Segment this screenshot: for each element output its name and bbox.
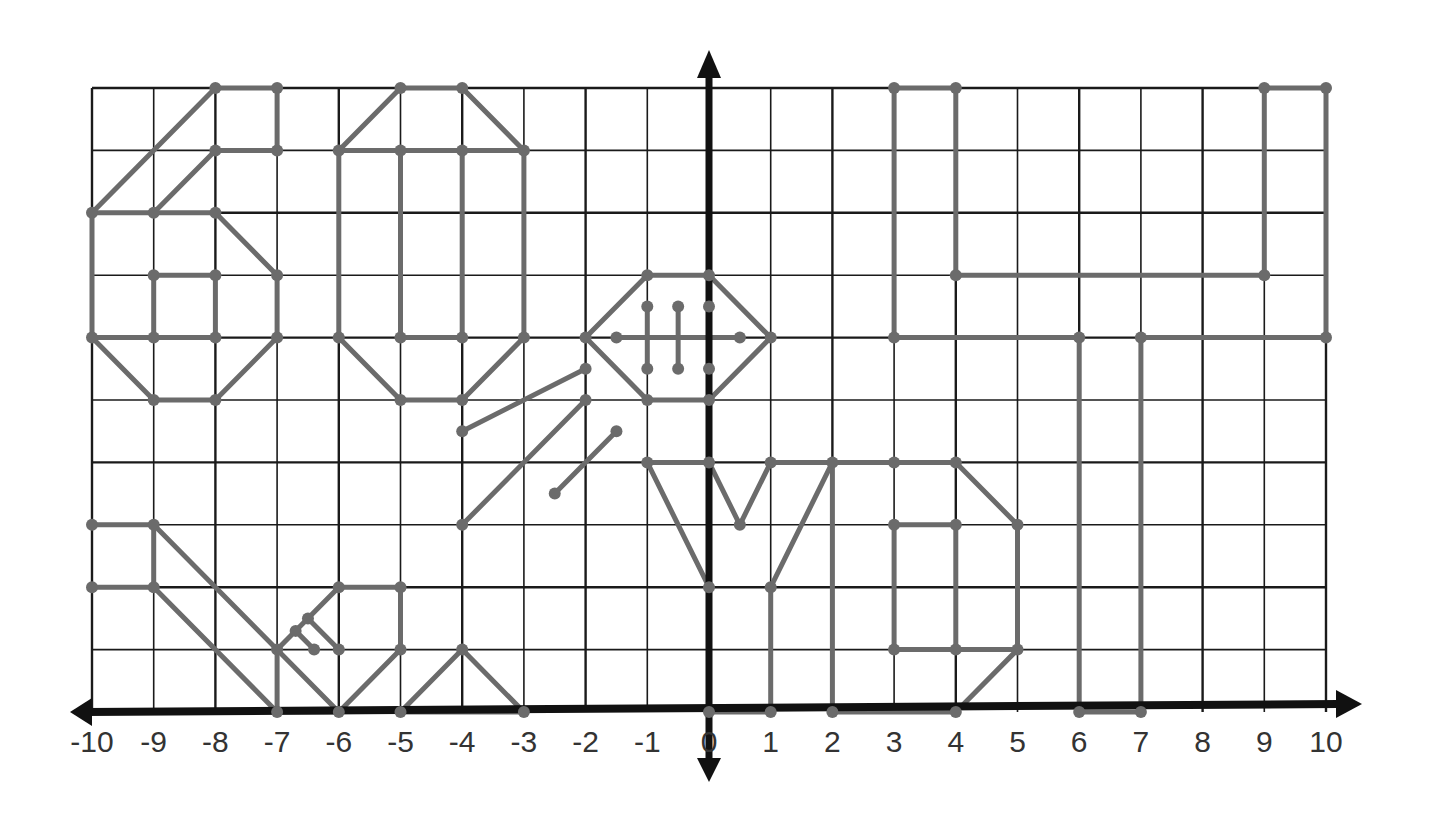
plotted-point (703, 706, 715, 718)
plotted-segment (709, 338, 771, 400)
plotted-point (826, 706, 838, 718)
plotted-point (950, 644, 962, 656)
x-tick-label: -10 (70, 725, 113, 758)
plotted-point (703, 581, 715, 593)
x-tick-label: 10 (1309, 725, 1342, 758)
plotted-point (148, 269, 160, 281)
plotted-point (333, 144, 345, 156)
plotted-point (86, 332, 98, 344)
x-tick-label: -5 (387, 725, 414, 758)
plotted-segment (462, 650, 524, 712)
plotted-point (333, 581, 345, 593)
plotted-segment (462, 88, 524, 150)
plotted-point (1073, 706, 1085, 718)
plotted-point (734, 519, 746, 531)
plotted-point (456, 144, 468, 156)
plotted-point (271, 644, 283, 656)
plotted-point (395, 144, 407, 156)
plotted-point (456, 394, 468, 406)
plotted-point (148, 207, 160, 219)
plotted-point (641, 456, 653, 468)
plotted-point (209, 394, 221, 406)
x-tick-label: -4 (449, 725, 476, 758)
plotted-point (456, 425, 468, 437)
plotted-point (703, 269, 715, 281)
plotted-point (518, 706, 530, 718)
plotted-point (888, 644, 900, 656)
plotted-segment (215, 338, 277, 400)
plotted-point (395, 82, 407, 94)
plotted-point (209, 332, 221, 344)
plotted-point (950, 706, 962, 718)
x-tick-label: 3 (886, 725, 903, 758)
plotted-point (209, 144, 221, 156)
plotted-point (888, 332, 900, 344)
plotted-point (765, 332, 777, 344)
plotted-segment (586, 275, 648, 337)
x-tick-label: -3 (511, 725, 538, 758)
plotted-point (1258, 82, 1270, 94)
axes (70, 50, 1362, 782)
plotted-point (888, 82, 900, 94)
plotted-point (888, 519, 900, 531)
plotted-point (1012, 519, 1024, 531)
plotted-segment (709, 462, 740, 524)
plotted-point (333, 706, 345, 718)
plotted-point (672, 363, 684, 375)
plotted-point (209, 207, 221, 219)
plotted-point (580, 363, 592, 375)
plotted-segment (339, 88, 401, 150)
x-tick-label: -9 (140, 725, 167, 758)
x-tick-label: 5 (1009, 725, 1026, 758)
plotted-point (395, 706, 407, 718)
x-tick-labels: -10-9-8-7-6-5-4-3-2-1012345678910 (70, 725, 1342, 758)
plotted-segment (215, 213, 277, 275)
x-tick-label: 4 (947, 725, 964, 758)
plotted-point (456, 519, 468, 531)
plotted-point (950, 269, 962, 281)
x-tick-label: -7 (264, 725, 291, 758)
plotted-point (271, 706, 283, 718)
plotted-segment (339, 650, 401, 712)
plotted-point (333, 644, 345, 656)
plotted-point (703, 300, 715, 312)
plotted-point (271, 332, 283, 344)
plotted-point (271, 269, 283, 281)
plotted-point (1012, 644, 1024, 656)
plotted-point (148, 394, 160, 406)
plotted-point (703, 363, 715, 375)
plotted-point (271, 82, 283, 94)
plotted-point (518, 144, 530, 156)
y-axis-up-arrow-icon (697, 50, 721, 78)
plotted-point (86, 581, 98, 593)
plotted-point (148, 332, 160, 344)
plotted-segment (956, 462, 1018, 524)
x-tick-label: -2 (572, 725, 599, 758)
plotted-segment (401, 650, 463, 712)
plotted-point (148, 519, 160, 531)
plotted-point (641, 394, 653, 406)
plotted-point (209, 269, 221, 281)
plotted-point (765, 581, 777, 593)
plotted-segment (339, 338, 401, 400)
plotted-point (950, 82, 962, 94)
x-tick-label: 2 (824, 725, 841, 758)
x-tick-label: 9 (1256, 725, 1273, 758)
plotted-point (610, 332, 622, 344)
plotted-point (1073, 332, 1085, 344)
plotted-point (86, 207, 98, 219)
plotted-point (703, 456, 715, 468)
plotted-point (641, 269, 653, 281)
x-tick-label: 8 (1194, 725, 1211, 758)
plotted-point (86, 519, 98, 531)
plotted-segment (92, 338, 154, 400)
plotted-point (765, 456, 777, 468)
y-axis-down-arrow-icon (697, 758, 721, 782)
x-axis-right-arrow-icon (1336, 690, 1362, 718)
plotted-segment (709, 275, 771, 337)
plotted-point (1135, 332, 1147, 344)
plotted-point (290, 625, 302, 637)
plotted-point (1320, 82, 1332, 94)
x-tick-label: -6 (325, 725, 352, 758)
coordinate-grid: -10-9-8-7-6-5-4-3-2-1012345678910 (0, 0, 1439, 821)
